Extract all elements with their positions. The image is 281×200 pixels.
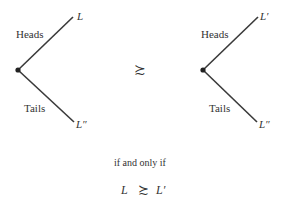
right-tails-branch xyxy=(203,70,257,122)
right-chance-node xyxy=(200,67,205,72)
left-tails-label: Tails xyxy=(24,103,45,114)
left-tails-branch xyxy=(18,70,74,122)
if-and-only-if-text: if and only if xyxy=(114,158,166,168)
left-heads-branch xyxy=(18,17,73,70)
conclusion-symbol: ≿ xyxy=(138,183,149,196)
left-chance-node xyxy=(15,67,20,72)
right-tails-outcome: L″ xyxy=(259,119,270,130)
right-heads-label: Heads xyxy=(201,29,229,40)
left-heads-label: Heads xyxy=(16,29,44,40)
left-tails-outcome: L″ xyxy=(76,119,87,130)
right-heads-outcome: L′ xyxy=(260,11,269,22)
left-heads-outcome: L xyxy=(77,11,83,22)
conclusion-rhs: L′ xyxy=(156,184,165,196)
weak-preference-symbol: ≿ xyxy=(134,63,146,77)
conclusion-lhs: L xyxy=(121,184,128,196)
right-heads-branch xyxy=(203,17,258,70)
right-tails-label: Tails xyxy=(209,103,230,114)
